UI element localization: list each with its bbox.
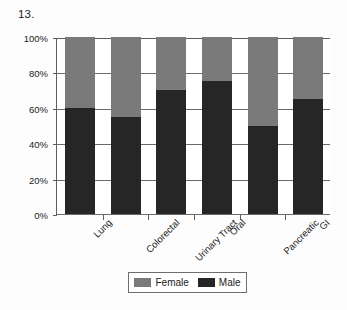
bar-segment-male[interactable]: [293, 99, 323, 214]
bar-segment-female[interactable]: [111, 37, 141, 117]
y-tick-mark: [53, 109, 57, 110]
bar-group[interactable]: [248, 37, 278, 214]
x-axis-label-lung: Lung: [92, 217, 115, 240]
bar-group[interactable]: [111, 37, 141, 214]
bar-segment-male[interactable]: [111, 117, 141, 214]
y-tick-label: 40%: [29, 139, 48, 150]
bar-segment-female[interactable]: [202, 37, 232, 81]
legend-swatch-icon: [198, 278, 215, 287]
y-tick-mark: [53, 180, 57, 181]
bar-segment-female[interactable]: [156, 37, 186, 90]
y-tick-label: 60%: [29, 103, 48, 114]
x-axis-label-gi: GI: [317, 217, 332, 232]
x-axis-category-labels: LungColorectalUrinary TractOralPancreati…: [56, 217, 336, 267]
bar-group[interactable]: [156, 37, 186, 214]
y-tick-mark: [53, 38, 57, 39]
bar-group[interactable]: [293, 37, 323, 214]
y-tick-label: 80%: [29, 68, 48, 79]
bar-segment-female[interactable]: [65, 37, 95, 108]
legend-item-male[interactable]: Male: [198, 277, 241, 288]
gridline-80pct: [57, 73, 330, 74]
legend-item-female[interactable]: Female: [134, 277, 188, 288]
plot-area: [56, 38, 330, 215]
y-tick-mark: [53, 73, 57, 74]
gridline-100pct: [57, 38, 330, 39]
bar-segment-male[interactable]: [156, 90, 186, 214]
bar-segment-male[interactable]: [65, 108, 95, 214]
legend-label: Male: [219, 277, 241, 288]
x-axis-label-pancreatic: Pancreatic: [281, 217, 321, 257]
gridline-40pct: [57, 144, 330, 145]
bar-segment-female[interactable]: [248, 37, 278, 126]
gridline-60pct: [57, 109, 330, 110]
bar-group[interactable]: [65, 37, 95, 214]
chart-legend: FemaleMale: [128, 272, 247, 293]
gridline-20pct: [57, 180, 330, 181]
bar-segment-male[interactable]: [202, 81, 232, 214]
y-tick-label: 0%: [34, 210, 48, 221]
y-tick-mark: [53, 215, 57, 216]
figure-container: 13. 0%20%40%60%80%100% LungColorectalUri…: [0, 0, 347, 310]
y-tick-label: 20%: [29, 174, 48, 185]
x-axis-label-colorectal: Colorectal: [144, 217, 182, 255]
y-axis-tick-labels: 0%20%40%60%80%100%: [0, 38, 52, 215]
y-tick-mark: [53, 144, 57, 145]
legend-label: Female: [155, 277, 188, 288]
bar-segment-female[interactable]: [293, 37, 323, 99]
bar-segment-male[interactable]: [248, 126, 278, 215]
y-tick-label: 100%: [24, 33, 48, 44]
bar-group[interactable]: [202, 37, 232, 214]
legend-swatch-icon: [134, 278, 151, 287]
figure-number-label: 13.: [18, 8, 35, 20]
